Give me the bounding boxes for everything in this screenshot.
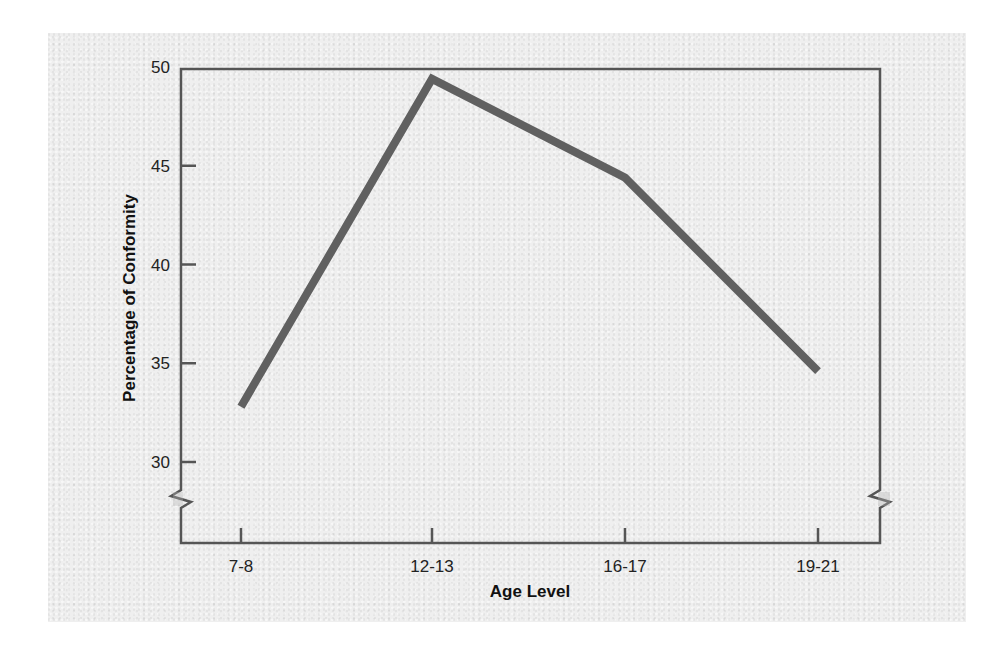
line-chart: 3035404550 7-812-1316-1719-21 Age Level …	[0, 0, 994, 658]
y-tick-label: 45	[151, 157, 170, 176]
y-tick-label: 50	[151, 58, 170, 77]
x-tick-label: 16-17	[603, 557, 646, 576]
x-axis-ticks: 7-812-1316-1719-21	[229, 528, 840, 576]
y-tick-label: 30	[151, 453, 170, 472]
axis-break-left	[173, 492, 183, 506]
y-axis-ticks: 3035404550	[151, 58, 196, 472]
y-tick-label: 40	[151, 256, 170, 275]
x-tick-label: 19-21	[796, 557, 839, 576]
conformity-line	[241, 79, 818, 407]
data-series	[241, 79, 818, 407]
x-tick-label: 7-8	[229, 557, 254, 576]
x-tick-label: 12-13	[410, 557, 453, 576]
axis-break-right	[878, 492, 890, 506]
x-axis-title: Age Level	[490, 582, 570, 601]
plot-border	[171, 69, 890, 543]
y-axis-title: Percentage of Conformity	[120, 194, 139, 402]
y-tick-label: 35	[151, 354, 170, 373]
plot-frame	[171, 69, 890, 543]
